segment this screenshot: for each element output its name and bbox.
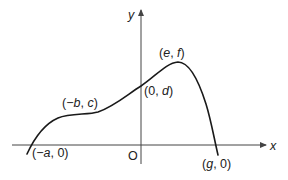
y-axis-label: y xyxy=(127,8,135,22)
point-label-0-d: (0, d) xyxy=(144,84,173,98)
point-label-e-f: (e, f) xyxy=(159,46,185,60)
point-label-neg-b-c: (−b, c) xyxy=(62,96,98,110)
function-curve xyxy=(27,62,218,155)
graph-canvas: x y O (−a, 0) (−b, c) (0, d) (e, f) (g, … xyxy=(0,0,288,180)
point-label-neg-a-0: (−a, 0) xyxy=(32,146,69,160)
origin-label: O xyxy=(128,149,138,163)
point-label-g-0: (g, 0) xyxy=(202,157,231,171)
x-axis-label: x xyxy=(269,139,277,153)
